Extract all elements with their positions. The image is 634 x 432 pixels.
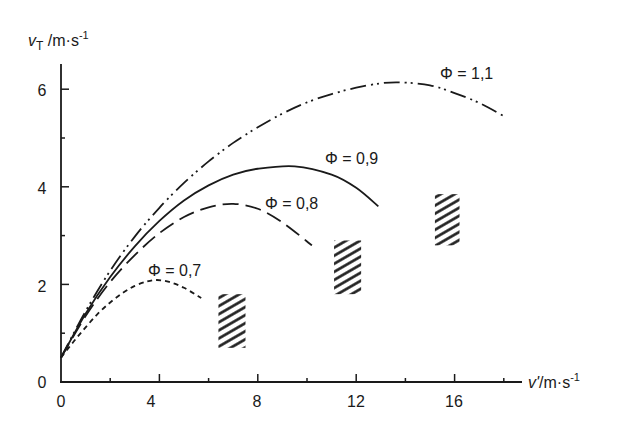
curve-08	[61, 204, 312, 358]
y-tick-2: 2	[38, 278, 47, 295]
x-tick-8: 8	[253, 393, 262, 410]
x-tick-4: 4	[147, 393, 156, 410]
y-axis-title: vT /m·s-1	[28, 29, 89, 53]
hatched-regions	[218, 194, 459, 348]
label-phi-08: Φ = 0,8	[265, 195, 318, 212]
y-axis-exponent: -1	[79, 29, 89, 41]
label-phi-09: Φ = 0,9	[325, 150, 378, 167]
y-axis-unit: /m·s	[43, 32, 79, 49]
x-tick-0: 0	[57, 393, 66, 410]
y-tick-4: 4	[38, 180, 47, 197]
hatched-region-1	[218, 294, 245, 348]
y-tick-labels: 0 2 4 6	[38, 82, 47, 391]
hatched-region-3	[435, 194, 460, 245]
chart: 0 4 8 12 16 0 2 4 6 vT /m·s-1 v'/m·s-1 Φ…	[0, 0, 634, 432]
x-tick-16: 16	[445, 393, 463, 410]
x-tick-12: 12	[347, 393, 365, 410]
label-phi-11: Φ = 1,1	[440, 65, 493, 82]
label-phi-07: Φ = 0,7	[148, 262, 201, 279]
x-tick-labels: 0 4 8 12 16	[57, 393, 463, 410]
x-axis-unit: /m·s	[539, 374, 570, 391]
x-axis-title: v'/m·s-1	[528, 371, 580, 391]
y-tick-6: 6	[38, 82, 47, 99]
y-tick-0: 0	[38, 374, 47, 391]
x-axis-exponent: -1	[570, 371, 580, 383]
hatched-region-2	[334, 240, 361, 294]
